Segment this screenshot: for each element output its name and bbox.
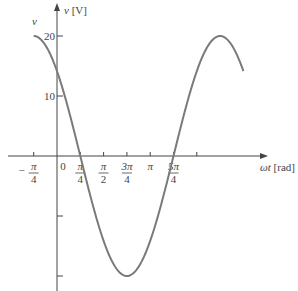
x-tick-label: π [101, 160, 107, 172]
x-tick-label: 4 [78, 173, 84, 185]
x-axis-arrow-icon [260, 153, 268, 159]
x-tick-label: 4 [31, 173, 37, 185]
x-tick-label: 2 [101, 173, 107, 185]
voltage-cosine-chart: v [V] ωt [rad] v −π40π4π23π4π5π42010 [0, 0, 298, 291]
x-tick-label: 0 [60, 160, 66, 172]
y-tick-label: 10 [44, 90, 56, 102]
x-tick-label: π [31, 160, 37, 172]
x-tick-label: 4 [171, 173, 177, 185]
ticks: −π40π4π23π4π5π42010 [19, 30, 197, 276]
x-tick-label: 3π [120, 160, 133, 172]
x-tick-label: 4 [124, 173, 130, 185]
x-tick-label: π [147, 160, 153, 172]
x-axis-label: ωt [rad] [260, 161, 295, 173]
y-axis-arrow-icon [54, 3, 60, 11]
y-axis-label: v [V] [64, 4, 87, 16]
x-tick-label: − [19, 164, 25, 176]
curve-label: v [32, 15, 37, 27]
y-tick-label: 20 [44, 30, 56, 42]
